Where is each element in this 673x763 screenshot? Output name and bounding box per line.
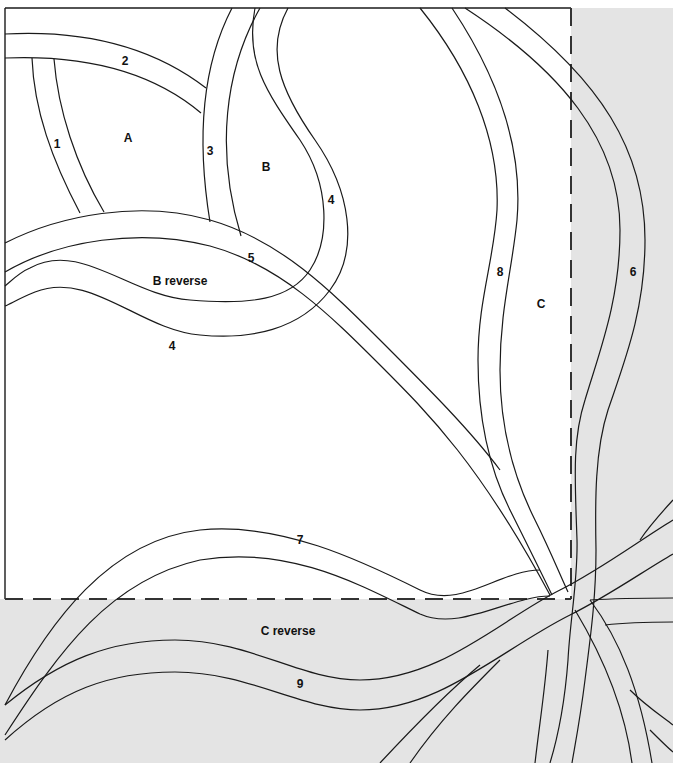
region-label-c: C bbox=[537, 297, 546, 311]
strip-label-6: 6 bbox=[630, 265, 637, 279]
strip-8 bbox=[420, 8, 568, 595]
region-label-b: B bbox=[262, 160, 271, 174]
strip-label-5: 5 bbox=[248, 251, 255, 265]
strip-2 bbox=[5, 33, 206, 113]
shaded-area-bottom bbox=[0, 599, 673, 763]
strip-label-4-lower: 4 bbox=[169, 339, 176, 353]
strip-1 bbox=[32, 58, 104, 213]
strip-5 bbox=[5, 211, 550, 595]
strip-label-1: 1 bbox=[54, 137, 61, 151]
region-label-c-reverse: C reverse bbox=[261, 624, 316, 638]
strip-label-3: 3 bbox=[207, 144, 214, 158]
strip-label-7: 7 bbox=[297, 533, 304, 547]
strip-label-4-upper: 4 bbox=[328, 193, 335, 207]
region-label-b-reverse: B reverse bbox=[153, 274, 208, 288]
strip-label-2: 2 bbox=[122, 54, 129, 68]
strip-label-8: 8 bbox=[497, 265, 504, 279]
strip-label-9: 9 bbox=[297, 677, 304, 691]
strip-3 bbox=[203, 8, 260, 236]
region-label-a: A bbox=[124, 131, 133, 145]
quilt-pattern-diagram: A B B reverse C C reverse 1 2 3 4 4 5 6 … bbox=[0, 0, 673, 763]
